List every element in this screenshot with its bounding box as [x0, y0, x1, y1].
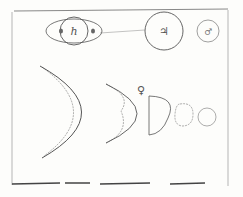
saturn-left-moon-icon: [59, 29, 63, 34]
illustration-canvas: h ♃ ♂ ♀: [0, 0, 243, 197]
mars-symbol: ♂: [204, 27, 212, 37]
frame: [12, 9, 228, 186]
saturn-symbol: h: [70, 25, 77, 38]
mars-figure: ♂: [197, 20, 219, 42]
venus-symbol: ♀: [137, 84, 145, 97]
jupiter-figure: ♃: [145, 12, 183, 50]
saturn-right-moon-icon: [91, 29, 95, 34]
planet-drawing: h ♃ ♂ ♀: [0, 0, 243, 197]
jupiter-symbol: ♃: [159, 25, 169, 38]
saturn-figure: h: [46, 17, 145, 45]
venus-phases: ♀: [40, 66, 216, 158]
